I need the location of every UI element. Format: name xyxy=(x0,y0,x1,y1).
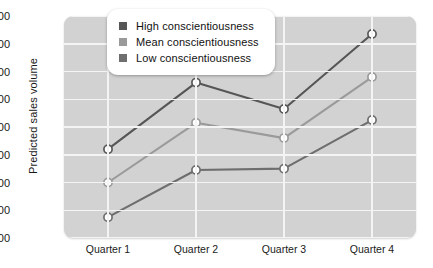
x-axis-tick-label: Quarter 4 xyxy=(350,243,394,255)
y-axis-tick-label: 1,500 xyxy=(0,66,10,78)
gridline-vertical xyxy=(283,16,285,238)
y-axis-title: Predicted sales volume xyxy=(27,21,39,211)
x-axis-tick-label: Quarter 1 xyxy=(86,243,130,255)
gridline-horizontal xyxy=(64,126,416,128)
legend-swatch-icon xyxy=(119,54,127,62)
chart-figure: Predicted sales volume 1,7001,6001,5001,… xyxy=(0,0,433,268)
y-axis-tick-label: 900 xyxy=(0,232,10,244)
series-line xyxy=(108,120,372,217)
legend-label: Mean conscientiousness xyxy=(136,36,259,48)
series-line xyxy=(108,77,372,182)
y-axis-tick-label: 1,100 xyxy=(0,177,10,189)
y-axis-tick-label: 1,400 xyxy=(0,93,10,105)
chart-legend: High conscientiousnessMean conscientious… xyxy=(107,9,275,75)
x-axis-tick-label: Quarter 2 xyxy=(174,243,218,255)
legend-label: High conscientiousness xyxy=(136,20,254,32)
gridline-horizontal xyxy=(64,210,416,212)
x-axis-tick-label: Quarter 3 xyxy=(262,243,306,255)
legend-item: High conscientiousness xyxy=(119,18,259,34)
y-axis-tick-label: 1,700 xyxy=(0,10,10,22)
gridline-horizontal xyxy=(64,99,416,101)
gridline-horizontal xyxy=(64,237,416,238)
y-axis-tick-label: 1,600 xyxy=(0,38,10,50)
gridline-horizontal xyxy=(64,182,416,184)
legend-item: Low conscientiousness xyxy=(119,50,259,66)
y-axis-tick-label: 1,200 xyxy=(0,149,10,161)
series-3 xyxy=(104,116,376,221)
gridline-vertical xyxy=(371,16,373,238)
y-axis-tick-label: 1,000 xyxy=(0,204,10,216)
y-axis-tick-label: 1,300 xyxy=(0,121,10,133)
legend-swatch-icon xyxy=(119,22,127,30)
gridline-horizontal xyxy=(64,154,416,156)
legend-swatch-icon xyxy=(119,38,127,46)
legend-label: Low conscientiousness xyxy=(136,52,251,64)
legend-item: Mean conscientiousness xyxy=(119,34,259,50)
